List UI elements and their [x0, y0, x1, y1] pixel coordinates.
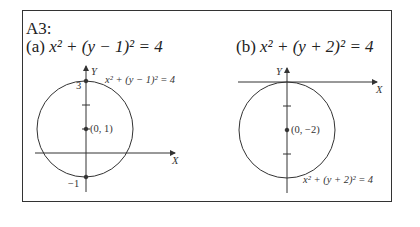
y-bottom-label-a: −1 [68, 178, 79, 189]
graphs [0, 0, 420, 227]
x-axis-label-b: X [376, 84, 382, 95]
x-axis-label-a: X [172, 155, 178, 166]
curve-label-b: x² + (y + 2)² = 4 [303, 174, 373, 185]
curve-label-a: x² + (y − 1)² = 4 [105, 74, 175, 85]
y-top-label-a: 3 [76, 80, 81, 91]
y-axis-label-a: Y [91, 66, 97, 77]
center-label-a: (0, 1) [90, 123, 113, 134]
y-axis-label-b: Y [276, 66, 282, 77]
center-label-b: (0, −2) [291, 124, 320, 135]
